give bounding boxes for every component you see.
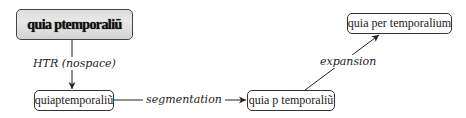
edge-label-expansion: expansion [318,55,378,68]
node-expanded: quia per temporalium [347,13,452,34]
edge-label-htr: HTR (nospace) [33,57,116,70]
node-expanded-text: quia per temporalium [348,16,451,31]
manuscript-text: quia ptemporaliũ [27,16,121,34]
node-htr-output-text: quiaptemporaliũ [35,93,114,108]
node-segmented-text: quia p temporaliũ [249,93,334,108]
edge-label-segmentation: segmentation [143,93,225,106]
node-htr-output: quiaptemporaliũ [34,90,114,111]
node-segmented: quia p temporaliũ [247,90,335,111]
manuscript-image-node: quia ptemporaliũ [16,9,133,40]
